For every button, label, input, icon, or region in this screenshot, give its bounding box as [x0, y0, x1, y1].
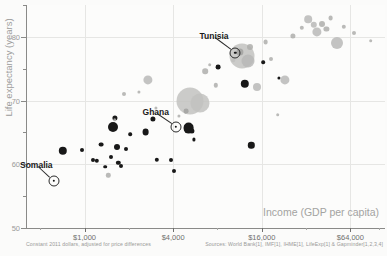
gridline-vertical: [350, 5, 351, 228]
data-bubble[interactable]: [98, 142, 103, 147]
data-bubble[interactable]: [208, 63, 212, 67]
x-axis-tick-label: $4,000: [162, 233, 185, 242]
y-axis-minor-tick: [23, 196, 26, 197]
x-axis-tick: [350, 228, 351, 232]
y-axis-tick: [21, 101, 26, 102]
data-bubble[interactable]: [369, 39, 373, 43]
bubble-chart: $1,000$4,000$16,000$64,00080706050 Life …: [0, 0, 387, 256]
y-axis-minor-tick: [23, 132, 26, 133]
y-axis-tick: [21, 37, 26, 38]
gridline-vertical: [262, 5, 263, 228]
data-bubble[interactable]: [331, 37, 343, 49]
data-bubble[interactable]: [269, 57, 273, 61]
data-bubble[interactable]: [328, 15, 333, 20]
data-bubble[interactable]: [103, 165, 107, 169]
data-bubble[interactable]: [247, 44, 253, 50]
data-bubble[interactable]: [172, 169, 176, 173]
y-axis-tick-label: 50: [12, 224, 20, 233]
callout-label-tunisia[interactable]: Tunisia: [199, 31, 228, 41]
footer-note-left: Constant 2011 dollars, adjusted for pric…: [26, 241, 151, 247]
x-axis-title: Income (GDP per capita): [263, 206, 379, 218]
data-bubble[interactable]: [122, 92, 126, 96]
y-axis-tick: [21, 228, 26, 229]
footer-note-right: Sources: World Bank[1], IMF[1], IHME[1],…: [205, 241, 383, 247]
y-axis-title: Life expectancy (years): [3, 8, 14, 128]
data-bubble[interactable]: [109, 155, 113, 159]
x-axis-tick: [173, 228, 174, 232]
x-axis-minor-tick: [129, 228, 130, 230]
data-bubble[interactable]: [113, 118, 117, 122]
data-bubble[interactable]: [202, 68, 208, 74]
x-axis-line: [26, 228, 385, 229]
data-bubble[interactable]: [80, 148, 84, 152]
gridline-horizontal: [26, 164, 385, 165]
x-axis-tick: [85, 228, 86, 232]
x-axis-minor-tick: [379, 228, 380, 230]
data-bubble[interactable]: [119, 164, 123, 168]
data-bubble[interactable]: [276, 113, 280, 117]
data-bubble[interactable]: [169, 158, 173, 162]
data-bubble[interactable]: [241, 55, 254, 68]
x-axis-tick: [262, 228, 263, 232]
x-axis-minor-tick: [306, 228, 307, 230]
callout-label-ghana[interactable]: Ghana: [143, 107, 169, 117]
data-bubble[interactable]: [124, 147, 128, 151]
y-axis-minor-tick: [23, 5, 26, 6]
x-axis-minor-tick: [40, 228, 41, 230]
y-axis-tick-label: 60: [12, 160, 20, 169]
data-bubble[interactable]: [263, 40, 268, 45]
data-bubble[interactable]: [352, 31, 356, 35]
data-bubble[interactable]: [108, 122, 118, 132]
data-bubble[interactable]: [216, 65, 221, 70]
data-bubble[interactable]: [129, 133, 133, 137]
gridline-vertical: [85, 5, 86, 228]
data-bubble[interactable]: [262, 61, 266, 65]
data-bubble[interactable]: [191, 94, 210, 113]
y-axis-line: [26, 5, 27, 228]
data-bubble[interactable]: [253, 83, 261, 91]
y-axis-minor-tick: [23, 69, 26, 70]
gridline-vertical: [173, 5, 174, 228]
data-bubble[interactable]: [142, 129, 149, 136]
callout-label-somalia[interactable]: Somalia: [20, 160, 53, 170]
data-bubble[interactable]: [114, 144, 120, 150]
x-axis-minor-tick: [217, 228, 218, 230]
